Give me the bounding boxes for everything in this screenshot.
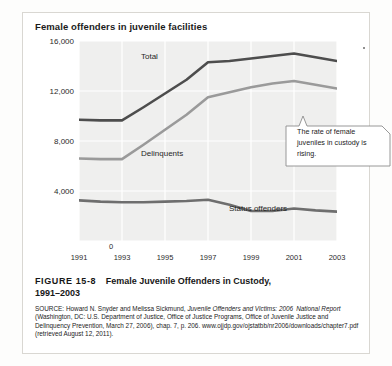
source-note: SOURCE: Howard N. Snyder and Melissa Sic… bbox=[35, 305, 361, 339]
source-italic-1: Juvenile Offenders and Victims: 2006 bbox=[187, 305, 293, 312]
x-axis: 0 1991199319951997199920012003 bbox=[79, 243, 337, 269]
callout-text: The rate of female juveniles in custody … bbox=[297, 126, 383, 159]
source-text-1: Howard N. Snyder and Melissa Sickmund, bbox=[64, 305, 187, 312]
caption-line-2: 1991–2003 bbox=[35, 287, 359, 299]
x-tick-label: 2003 bbox=[329, 253, 346, 262]
x-tick-label: 1993 bbox=[114, 253, 131, 262]
x-tick-label: 1997 bbox=[200, 253, 217, 262]
x-tick-label: 1999 bbox=[243, 253, 260, 262]
source-label: SOURCE: bbox=[35, 305, 64, 312]
figure-title-line2: 1991–2003 bbox=[35, 288, 80, 298]
x-tick-label: 1991 bbox=[71, 253, 88, 262]
x-tick-label: 2001 bbox=[286, 253, 303, 262]
y-tick-label: 4,000 bbox=[54, 187, 74, 196]
y-tick-label: 8,000 bbox=[54, 137, 74, 146]
y-tick-label: 12,000 bbox=[50, 87, 74, 96]
chart-title: Female offenders in juvenile facilities bbox=[35, 21, 207, 32]
y-tick-zero: 0 bbox=[109, 242, 113, 251]
callout-annotation: The rate of female juveniles in custody … bbox=[285, 115, 391, 167]
source-text-2: (Washington, DC: U.S. Department of Just… bbox=[35, 313, 358, 337]
x-tick-label: 1995 bbox=[157, 253, 174, 262]
margin-dot-icon bbox=[363, 47, 365, 49]
series-label: Delinquents bbox=[141, 149, 183, 158]
figure-title: Female Juvenile Offenders in Custody, bbox=[106, 276, 271, 286]
y-tick-label: 16,000 bbox=[50, 37, 74, 46]
series-label: Status offenders bbox=[229, 204, 287, 213]
figure-container: Female offenders in juvenile facilities … bbox=[22, 12, 370, 354]
series-label: Total bbox=[141, 52, 158, 61]
y-axis: 4,0008,00012,00016,000 bbox=[35, 37, 77, 249]
figure-number: FIGURE 15-8 bbox=[35, 276, 96, 286]
caption-line-1: FIGURE 15-8 Female Juvenile Offenders in… bbox=[35, 275, 359, 287]
source-italic-2: National Report bbox=[296, 305, 340, 312]
figure-caption: FIGURE 15-8 Female Juvenile Offenders in… bbox=[35, 275, 359, 299]
figure-page: Female offenders in juvenile facilities … bbox=[0, 0, 392, 366]
